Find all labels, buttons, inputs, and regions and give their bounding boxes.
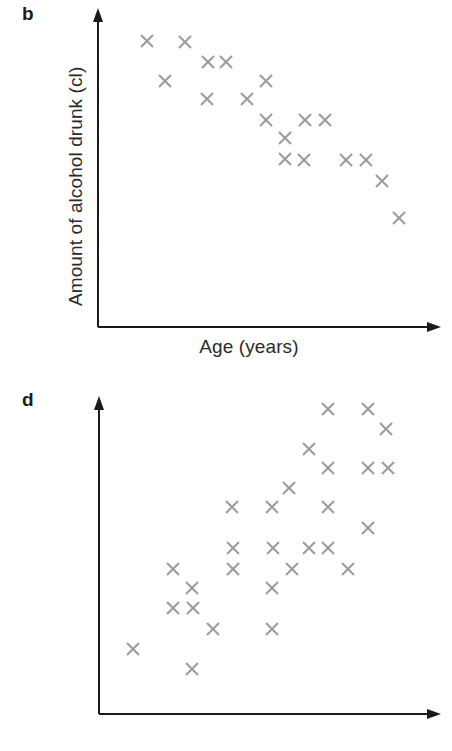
data-point <box>187 602 199 614</box>
data-point <box>299 114 311 126</box>
data-point <box>167 563 179 575</box>
data-point <box>279 132 291 144</box>
data-point <box>376 175 388 187</box>
data-point <box>127 643 139 655</box>
figure-page: b <box>0 0 452 751</box>
data-point <box>201 93 213 105</box>
data-point <box>179 36 191 48</box>
y-axis-arrowhead-d <box>94 396 104 410</box>
data-point <box>226 501 238 513</box>
data-point <box>207 623 219 635</box>
data-point <box>141 35 153 47</box>
x-axis-arrowhead-d <box>427 709 441 719</box>
data-point <box>266 582 278 594</box>
data-markers-d <box>127 403 394 675</box>
data-point <box>186 663 198 675</box>
data-point <box>393 212 405 224</box>
data-markers-b <box>141 35 405 224</box>
data-point <box>283 482 295 494</box>
data-point <box>167 602 179 614</box>
data-point <box>322 542 334 554</box>
y-axis-arrowhead-b <box>93 8 103 22</box>
data-point <box>322 501 334 513</box>
data-point <box>279 153 291 165</box>
data-point <box>319 114 331 126</box>
data-point <box>382 462 394 474</box>
data-point <box>360 154 372 166</box>
data-point <box>159 75 171 87</box>
scatter-panel-d: d <box>0 376 452 751</box>
data-point <box>380 423 392 435</box>
x-axis-arrowhead-b <box>427 322 441 332</box>
data-point <box>362 462 374 474</box>
data-point <box>266 501 278 513</box>
data-point <box>322 462 334 474</box>
data-point <box>303 443 315 455</box>
data-point <box>362 403 374 415</box>
plot-area-d <box>0 376 452 751</box>
data-point <box>186 582 198 594</box>
data-point <box>286 563 298 575</box>
data-point <box>260 114 272 126</box>
data-point <box>227 542 239 554</box>
data-point <box>227 563 239 575</box>
data-point <box>220 56 232 68</box>
data-point <box>322 403 334 415</box>
data-point <box>298 154 310 166</box>
data-point <box>340 154 352 166</box>
data-point <box>267 542 279 554</box>
data-point <box>303 542 315 554</box>
data-point <box>241 93 253 105</box>
data-point <box>342 563 354 575</box>
data-point <box>260 75 272 87</box>
data-point <box>362 522 374 534</box>
data-point <box>202 56 214 68</box>
scatter-panel-b: b <box>0 0 452 376</box>
x-axis-label-b: Age (years) <box>0 336 452 358</box>
y-axis-label-b: Amount of alcohol drunk (cl) <box>66 67 86 306</box>
data-point <box>266 623 278 635</box>
